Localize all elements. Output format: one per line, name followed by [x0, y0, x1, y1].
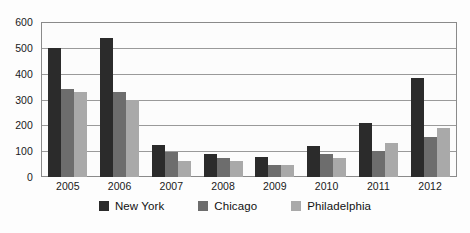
legend-item-philadelphia[interactable]: Philadelphia — [291, 200, 371, 212]
legend-swatch-icon — [99, 201, 109, 211]
x-tick-label: 2011 — [353, 180, 405, 192]
legend-label: Chicago — [214, 200, 257, 212]
bar-philadelphia-2010 — [333, 158, 346, 177]
bar-group — [249, 23, 301, 177]
bar-philadelphia-2009 — [281, 165, 294, 177]
bar-new-york-2008 — [204, 154, 217, 177]
bar-group — [94, 23, 146, 177]
x-tick-label: 2009 — [249, 180, 301, 192]
y-tick-label: 200 — [15, 119, 33, 131]
bar-chicago-2012 — [424, 137, 437, 177]
chart-legend: New YorkChicagoPhiladelphia — [0, 200, 470, 212]
y-tick-label: 300 — [15, 94, 33, 106]
bar-chicago-2008 — [217, 158, 230, 177]
bar-group — [353, 23, 405, 177]
bar-new-york-2012 — [411, 78, 424, 177]
bar-philadelphia-2008 — [230, 161, 243, 177]
y-tick-label: 0 — [27, 171, 33, 183]
bar-new-york-2011 — [359, 123, 372, 177]
bar-philadelphia-2006 — [126, 100, 139, 178]
y-tick-label: 400 — [15, 68, 33, 80]
y-tick-label: 500 — [15, 42, 33, 54]
bar-group — [146, 23, 198, 177]
bar-chicago-2009 — [268, 165, 281, 177]
x-axis: 20052006200720082009201020112012 — [42, 180, 456, 192]
y-tick-label: 600 — [15, 16, 33, 28]
legend-item-chicago[interactable]: Chicago — [198, 200, 257, 212]
bar-chicago-2007 — [165, 152, 178, 177]
bar-group — [42, 23, 94, 177]
bar-chicago-2010 — [320, 154, 333, 177]
y-axis: 0100200300400500600 — [0, 22, 38, 177]
bar-group — [404, 23, 456, 177]
bar-group — [301, 23, 353, 177]
x-tick-label: 2007 — [146, 180, 198, 192]
bar-new-york-2010 — [307, 146, 320, 177]
bar-chicago-2011 — [372, 151, 385, 177]
bar-philadelphia-2012 — [437, 128, 450, 177]
x-tick-label: 2005 — [42, 180, 94, 192]
bar-chicago-2006 — [113, 92, 126, 177]
x-tick-label: 2006 — [94, 180, 146, 192]
bar-chart-figure: 0100200300400500600 20052006200720082009… — [0, 0, 470, 233]
legend-swatch-icon — [198, 201, 208, 211]
legend-swatch-icon — [291, 201, 301, 211]
x-tick-label: 2008 — [197, 180, 249, 192]
bar-philadelphia-2005 — [74, 92, 87, 177]
bar-chicago-2005 — [61, 89, 74, 177]
bar-new-york-2009 — [255, 157, 268, 177]
y-tick-label: 100 — [15, 145, 33, 157]
bar-philadelphia-2007 — [178, 161, 191, 177]
bar-new-york-2005 — [48, 48, 61, 177]
legend-item-new-york[interactable]: New York — [99, 200, 164, 212]
bars-layer — [42, 23, 456, 177]
bar-philadelphia-2011 — [385, 143, 398, 177]
x-tick-label: 2012 — [404, 180, 456, 192]
bar-group — [197, 23, 249, 177]
bar-new-york-2007 — [152, 145, 165, 177]
bar-new-york-2006 — [100, 38, 113, 178]
x-tick-label: 2010 — [301, 180, 353, 192]
legend-label: New York — [115, 200, 164, 212]
legend-label: Philadelphia — [307, 200, 371, 212]
